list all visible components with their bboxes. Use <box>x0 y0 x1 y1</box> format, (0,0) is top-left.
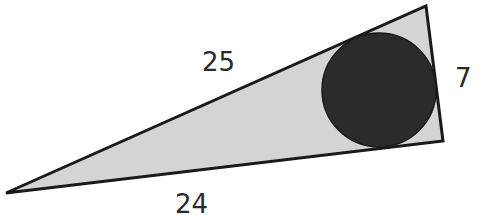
triangle-diagram: 25 7 24 <box>0 0 477 215</box>
label-short-leg: 7 <box>455 63 472 93</box>
inscribed-circle <box>322 33 436 147</box>
label-hypotenuse: 25 <box>202 47 235 77</box>
label-long-leg: 24 <box>175 189 208 215</box>
